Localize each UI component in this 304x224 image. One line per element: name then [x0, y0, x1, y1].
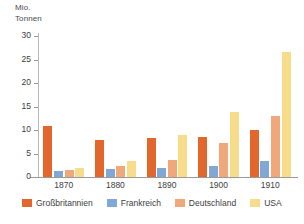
bar	[250, 130, 259, 177]
bar	[178, 135, 187, 177]
y-axis-tick: 5	[0, 154, 38, 155]
legend-label: USA	[264, 198, 281, 209]
legend-item[interactable]: USA	[250, 198, 281, 209]
y-tick-label: 0	[26, 171, 31, 182]
legend-label: Frankreich	[121, 198, 161, 209]
y-axis-tick: 30	[0, 36, 38, 37]
y-tick-label: 10	[22, 124, 31, 135]
y-axis-tick: 20	[0, 83, 38, 84]
bar	[198, 137, 207, 177]
chart-legend: GroßbritannienFrankreichDeutschlandUSA	[0, 196, 304, 210]
bar	[116, 166, 125, 177]
bar	[282, 52, 291, 177]
legend-label: Großbritannien	[36, 198, 93, 209]
bar	[209, 166, 218, 177]
legend-item[interactable]: Deutschland	[175, 198, 236, 209]
bar-chart: Mio. Tonnen 051015202530 187018801890190…	[0, 0, 304, 224]
bar	[54, 171, 63, 177]
bar	[260, 161, 269, 177]
y-tick-label: 30	[22, 30, 31, 41]
y-tick-label: 15	[22, 101, 31, 112]
y-axis-tick: 10	[0, 130, 38, 131]
legend-item[interactable]: Frankreich	[107, 198, 161, 209]
legend-swatch-icon	[107, 199, 117, 207]
x-axis-label: 1910	[240, 180, 300, 191]
bar	[230, 112, 239, 177]
bar	[219, 143, 228, 177]
y-axis-unit-label: Mio. Tonnen	[15, 3, 42, 24]
legend-swatch-icon	[22, 199, 32, 207]
y-axis-tick: 0	[0, 177, 38, 178]
bar	[271, 116, 280, 177]
bar	[75, 168, 84, 177]
legend-label: Deutschland	[189, 198, 236, 209]
y-tick-label: 25	[22, 54, 31, 65]
legend-item[interactable]: Großbritannien	[22, 198, 93, 209]
x-axis-line	[30, 177, 298, 178]
bar	[127, 161, 136, 177]
y-tick-label: 20	[22, 77, 31, 88]
y-axis-tick: 15	[0, 107, 38, 108]
y-tick-label: 5	[26, 148, 31, 159]
legend-swatch-icon	[250, 199, 260, 207]
bars-layer	[38, 36, 296, 177]
bar	[95, 140, 104, 177]
bar	[147, 138, 156, 177]
bar	[168, 160, 177, 177]
bar	[65, 170, 74, 177]
legend-swatch-icon	[175, 199, 185, 207]
bar	[157, 168, 166, 177]
y-axis-tick: 25	[0, 60, 38, 61]
bar	[43, 126, 52, 177]
y-tick-mark	[34, 177, 38, 178]
bar	[106, 169, 115, 177]
